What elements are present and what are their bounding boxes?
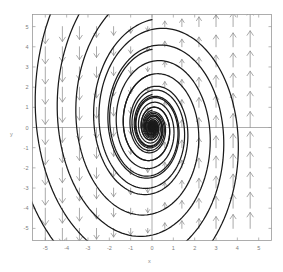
x-tick-label: 1 [172,245,175,251]
y-tick-label: 4 [25,44,28,50]
x-tick-label: -2 [107,245,112,251]
y-axis-label: y [10,131,13,137]
y-tick-label: 5 [25,24,28,30]
x-tick-label: -3 [86,245,91,251]
y-tick-label: -3 [24,185,29,191]
y-tick-label: -4 [24,205,29,211]
trajectory-curve [99,28,238,243]
y-tick-label: 2 [25,84,28,90]
y-tick-label: -1 [24,145,29,151]
phase-portrait-figure: -5-4-3-2-1012345-5-4-3-2-1012345 x y [0,0,283,272]
y-tick-label: 3 [25,64,28,70]
y-tick-label: -5 [24,225,29,231]
x-tick-label: 4 [236,245,239,251]
trajectory-curve [110,49,178,176]
x-tick-label: 0 [150,245,153,251]
x-tick-label: -1 [128,245,133,251]
x-tick-label: 5 [257,245,260,251]
x-tick-label: -5 [43,245,48,251]
y-tick-label: 1 [25,104,28,110]
plot-canvas: -5-4-3-2-1012345-5-4-3-2-1012345 [0,0,283,272]
x-tick-label: 2 [193,245,196,251]
x-tick-label: -4 [64,245,69,251]
trajectory-curve [35,11,94,246]
x-axis-label: x [148,258,151,264]
x-tick-label: 3 [214,245,217,251]
y-tick-label: 0 [25,125,28,131]
y-tick-label: -2 [24,165,29,171]
trajectory-curve [27,188,55,242]
